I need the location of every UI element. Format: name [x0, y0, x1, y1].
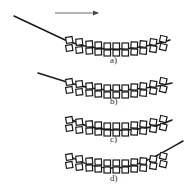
panel-label-c: c) — [110, 135, 117, 144]
panel-label-d: d) — [110, 174, 118, 183]
figure-canvas — [0, 0, 186, 192]
panel-a — [14, 16, 170, 56]
panel-label-a: a) — [110, 56, 117, 65]
panel-b-chain — [66, 77, 168, 98]
panel-b — [38, 73, 172, 98]
panel-c-chain — [66, 115, 168, 136]
figure-panel-sequence: a) b) c) d) — [0, 0, 186, 192]
panel-label-b: b) — [110, 97, 118, 106]
panel-c — [66, 115, 172, 136]
panel-d — [66, 141, 183, 173]
